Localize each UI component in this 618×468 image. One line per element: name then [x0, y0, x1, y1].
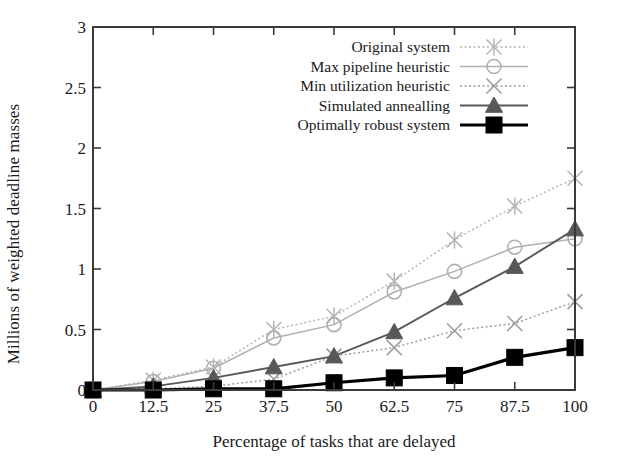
legend-marker-1: [460, 60, 528, 74]
legend-label: Min utilization heuristic: [300, 77, 450, 94]
legend-marker-0: [460, 38, 528, 55]
legend-label: Max pipeline heuristic: [311, 58, 451, 75]
marker-square: [486, 117, 502, 133]
series-layer: [85, 170, 584, 399]
marker-square: [447, 367, 463, 383]
plot-area: Original systemMax pipeline heuristicMin…: [0, 0, 618, 468]
chart-figure: Millions of weighted deadline masses Per…: [0, 0, 618, 468]
legend-marker-2: [460, 79, 528, 94]
chart-legend: Original systemMax pipeline heuristicMin…: [298, 38, 528, 133]
legend-label: Optimally robust system: [298, 116, 450, 133]
legend-label: Original system: [351, 38, 450, 55]
marker-triangle: [386, 323, 403, 338]
marker-triangle: [446, 290, 463, 305]
legend-marker-3: [460, 97, 528, 112]
marker-triangle: [506, 258, 523, 273]
legend-label: Simulated annealling: [319, 97, 451, 114]
legend-marker-4: [460, 117, 528, 133]
marker-square: [507, 349, 523, 365]
